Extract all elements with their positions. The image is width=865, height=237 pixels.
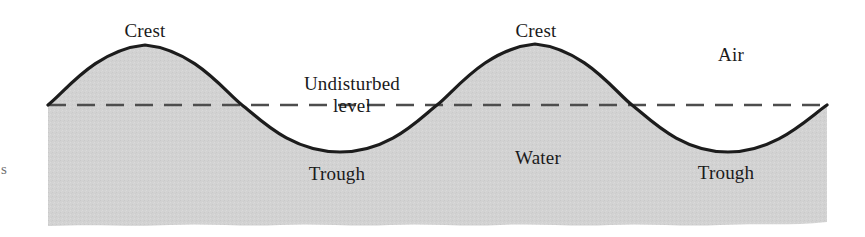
label-undisturbed-level-line2: level: [333, 95, 371, 116]
label-undisturbed-level-line1: Undisturbed: [304, 73, 400, 94]
label-air-region: Air: [718, 44, 744, 65]
wave-diagram-figure: Crest Crest Air Undisturbed level Trough…: [0, 0, 865, 237]
label-trough-right: Trough: [698, 162, 754, 183]
label-water-region: Water: [515, 147, 561, 168]
label-trough-left: Trough: [309, 163, 365, 184]
water-body-shape: [48, 44, 827, 226]
label-crest-left: Crest: [124, 20, 165, 41]
margin-mark: s: [1, 161, 7, 178]
label-crest-right: Crest: [515, 20, 556, 41]
